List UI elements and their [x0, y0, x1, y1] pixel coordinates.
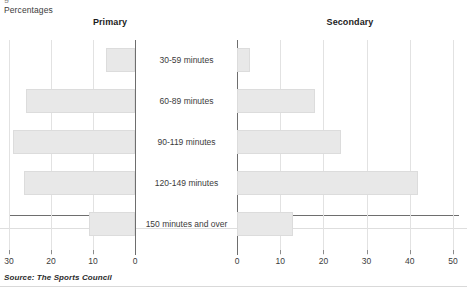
bar-secondary: [237, 212, 293, 236]
tick-label-secondary-0: 0: [224, 256, 250, 266]
tick-secondary-50: [453, 250, 454, 254]
chart-figure: g Percentages Primary Secondary Source: …: [0, 0, 467, 287]
tick-secondary-30: [367, 250, 368, 254]
tick-label-primary-20: 20: [38, 256, 64, 266]
bar-secondary: [237, 171, 418, 195]
cropped-top-glyph: g: [4, 0, 18, 3]
bar-primary: [26, 89, 135, 113]
category-label: 30-59 minutes: [136, 55, 237, 66]
tick-label-secondary-40: 40: [397, 256, 423, 266]
category-label: 150 minutes and over: [136, 219, 237, 230]
bar-secondary: [237, 48, 250, 72]
bar-primary: [106, 48, 135, 72]
tick-label-primary-0: 0: [122, 256, 148, 266]
tick-label-secondary-30: 30: [354, 256, 380, 266]
source-note: Source: The Sports Council: [4, 273, 112, 282]
tick-label-primary-10: 10: [80, 256, 106, 266]
tick-label-secondary-10: 10: [267, 256, 293, 266]
bar-primary: [89, 212, 135, 236]
category-label: 120-149 minutes: [136, 178, 237, 189]
bar-primary: [13, 130, 135, 154]
gridline-secondary-40: [410, 40, 411, 255]
tick-label-secondary-50: 50: [440, 256, 466, 266]
bar-secondary: [237, 130, 341, 154]
gridline-primary-30: [9, 40, 10, 255]
tick-primary-20: [51, 250, 52, 254]
gridline-secondary-50: [453, 40, 454, 255]
bar-primary: [24, 171, 135, 195]
panel-title-primary: Primary: [40, 17, 180, 27]
category-label: 90-119 minutes: [136, 137, 237, 148]
tick-label-primary-30: 30: [0, 256, 22, 266]
gridline-secondary-30: [367, 40, 368, 255]
units-label: Percentages: [4, 5, 53, 15]
panel-title-secondary: Secondary: [280, 17, 420, 27]
tick-secondary-20: [323, 250, 324, 254]
bar-secondary: [237, 89, 315, 113]
category-label: 60-89 minutes: [136, 96, 237, 107]
tick-secondary-10: [280, 250, 281, 254]
tick-primary-10: [93, 250, 94, 254]
tick-secondary-40: [410, 250, 411, 254]
tick-primary-30: [9, 250, 10, 254]
tick-label-secondary-20: 20: [310, 256, 336, 266]
